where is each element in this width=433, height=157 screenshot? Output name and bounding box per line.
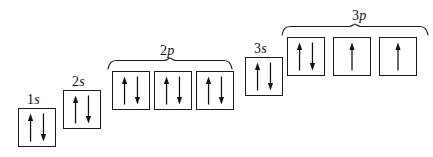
orbital-box-2pz[interactable]	[196, 71, 234, 110]
subshell-label-3p: 3p	[352, 9, 366, 23]
orbital-box-1s[interactable]	[18, 108, 56, 147]
subshell-label-2s: 2s	[72, 75, 85, 89]
subshell-label-letter: s	[261, 41, 267, 56]
subshell-label-letter: s	[79, 74, 85, 89]
orbital-box-3py[interactable]	[333, 37, 371, 76]
orbital-box-3pz[interactable]	[379, 37, 417, 76]
subshell-label-2p: 2p	[160, 44, 174, 58]
orbital-box-3s[interactable]	[245, 57, 283, 96]
orbital-box-2s[interactable]	[63, 90, 101, 129]
subshell-label-1s: 1s	[27, 93, 40, 107]
orbital-box-3px[interactable]	[287, 37, 325, 76]
orbital-filling-diagram: 1s2s2p3s3p	[0, 0, 433, 157]
subshell-label-3s: 3s	[254, 42, 267, 56]
subshell-label-letter: p	[359, 8, 366, 23]
orbital-box-2px[interactable]	[112, 71, 150, 110]
brace-3p	[282, 24, 428, 35]
brace-2p	[108, 58, 232, 69]
subshell-label-letter: s	[34, 92, 40, 107]
subshell-label-letter: p	[167, 43, 174, 58]
orbital-box-2py[interactable]	[154, 71, 192, 110]
